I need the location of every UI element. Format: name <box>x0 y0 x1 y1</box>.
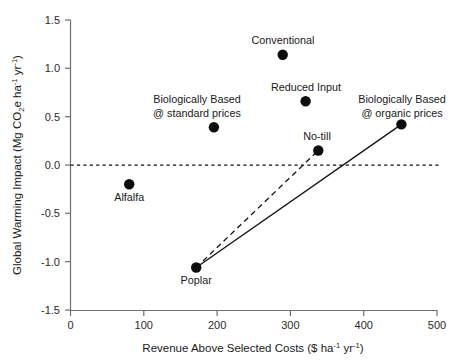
y-tick-label-5: -1.0 <box>41 256 60 268</box>
x-axis-title-sup1: -1 <box>334 341 341 350</box>
point-label-reduced-input: Reduced Input <box>271 81 341 93</box>
data-point-biologically-based-standard-prices[interactable] <box>209 122 219 132</box>
data-point-biologically-based-organic-prices[interactable] <box>396 119 406 129</box>
point-label-biologically-based-organic-prices: Biologically Based @ organic prices <box>358 93 446 119</box>
y-tick-label-1: 1.0 <box>45 62 60 74</box>
y-tick-label-4: -0.5 <box>41 207 60 219</box>
x-axis: 0 100 200 300 400 500 <box>67 310 446 331</box>
data-point-reduced-input[interactable] <box>300 96 310 106</box>
x-tick-label-1: 100 <box>135 319 153 331</box>
y-tick-label-2: 0.5 <box>45 111 60 123</box>
connector-poplar-to-organic <box>196 124 401 267</box>
x-axis-title-end: ) <box>360 342 364 354</box>
data-point-poplar[interactable] <box>191 262 201 272</box>
x-tick-label-3: 300 <box>281 319 299 331</box>
point-label-biologically-based-standard-prices: Biologically Based @ standard prices <box>153 93 241 119</box>
y-axis-title: Global Warming Impact (Mg CO2e ha-1 yr-1… <box>10 55 26 275</box>
x-tick-label-0: 0 <box>67 319 73 331</box>
point-label-bb-standard-line2: @ standard prices <box>153 107 241 119</box>
point-label-alfalfa: Alfalfa <box>114 191 144 203</box>
y-tick-label-6: -1.5 <box>41 304 60 316</box>
x-axis-title: Revenue Above Selected Costs ($ ha-1 yr-… <box>142 341 363 354</box>
x-axis-title-mid: yr <box>340 342 353 354</box>
y-axis-title-sup2: -1 <box>10 59 19 66</box>
x-axis-title-main: Revenue Above Selected Costs ($ ha <box>142 342 334 354</box>
x-tick-label-4: 400 <box>355 319 373 331</box>
scatter-plot-figure: 1.5 1.0 0.5 0.0 -0.5 -1.0 -1.5 0 100 200… <box>0 0 457 364</box>
point-label-no-till: No-till <box>303 130 331 142</box>
plot-canvas: 1.5 1.0 0.5 0.0 -0.5 -1.0 -1.5 0 100 200… <box>0 0 457 364</box>
x-tick-label-5: 500 <box>428 319 446 331</box>
y-axis: 1.5 1.0 0.5 0.0 -0.5 -1.0 -1.5 <box>41 14 70 316</box>
point-label-conventional: Conventional <box>251 34 314 46</box>
y-axis-title-end: ) <box>11 55 23 59</box>
point-label-bb-organic-line2: @ organic prices <box>361 107 443 119</box>
point-label-bb-standard-line1: Biologically Based <box>153 93 241 105</box>
x-axis-title-sup2: -1 <box>353 341 360 350</box>
data-point-no-till[interactable] <box>313 145 323 155</box>
data-point-conventional[interactable] <box>278 50 288 60</box>
x-tick-label-2: 200 <box>208 319 226 331</box>
y-tick-label-0: 1.5 <box>45 14 60 26</box>
y-axis-title-main: Global Warming Impact (Mg CO <box>11 112 23 275</box>
y-axis-title-sup1: -1 <box>10 78 19 85</box>
point-label-poplar: Poplar <box>181 274 213 286</box>
connector-poplar-to-notill <box>196 151 318 268</box>
point-label-bb-organic-line1: Biologically Based <box>358 93 446 105</box>
y-axis-title-mid: e ha <box>11 85 23 108</box>
y-axis-title-mid2: yr <box>11 65 23 78</box>
data-point-alfalfa[interactable] <box>124 179 134 189</box>
y-tick-label-3: 0.0 <box>45 159 60 171</box>
